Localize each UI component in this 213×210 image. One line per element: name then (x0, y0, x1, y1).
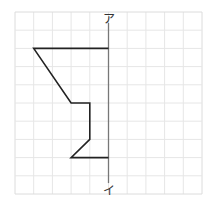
axis-label-bottom: イ (103, 184, 115, 198)
axis-label-top: ア (103, 12, 115, 26)
symmetry-diagram: ア イ (0, 0, 213, 210)
